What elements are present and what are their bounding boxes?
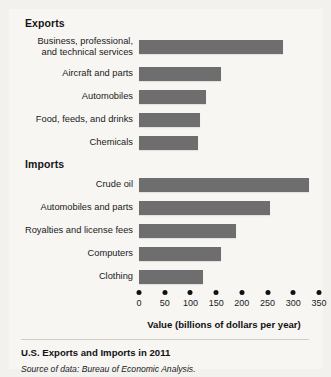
bar-row-label-line: and technical services: [17, 47, 133, 58]
bar-row: Automobiles: [17, 85, 313, 108]
bar-row-label-line: Food, feeds, and drinks: [17, 114, 133, 125]
bar-track: [139, 131, 313, 154]
bar-row-label: Aircraft and parts: [17, 68, 139, 79]
bar-row-label-line: Clothing: [17, 271, 133, 282]
bar-row-label-line: Automobiles: [17, 91, 133, 102]
bar-row-label: Royalties and license fees: [17, 225, 139, 236]
figure-page: Exports Business, professional,and techn…: [0, 0, 331, 377]
bar: [139, 201, 270, 215]
x-axis-tick-label: 300: [286, 298, 301, 308]
bar-row: Aircraft and parts: [17, 62, 313, 85]
bar-row: Computers: [17, 242, 313, 265]
x-axis-tick-label: 0: [136, 298, 141, 308]
bar-row: Food, feeds, and drinks: [17, 108, 313, 131]
bar-row: Royalties and license fees: [17, 219, 313, 242]
bar-row-label-line: Crude oil: [17, 179, 133, 190]
x-axis-tick-label: 50: [160, 298, 170, 308]
x-axis: 050100150200250300350: [139, 288, 313, 318]
bar: [139, 67, 221, 81]
x-axis-title: Value (billions of dollars per year): [139, 319, 313, 330]
bar-row: Automobiles and parts: [17, 196, 313, 219]
bar-row-label: Food, feeds, and drinks: [17, 114, 139, 125]
bar-track: [139, 265, 313, 288]
bar-row-label: Clothing: [17, 271, 139, 282]
bar-row: Chemicals: [17, 131, 313, 154]
x-axis-tick-dot: [162, 290, 167, 295]
x-axis-tick-label: 150: [209, 298, 224, 308]
bar-track: [139, 196, 313, 219]
x-axis-tick-label: 200: [234, 298, 249, 308]
bar-row: Clothing: [17, 265, 313, 288]
bar: [139, 40, 283, 54]
x-axis-tick-dot: [291, 290, 296, 295]
bar-row: Crude oil: [17, 173, 313, 196]
bar: [139, 136, 198, 150]
figure-panel: Exports Business, professional,and techn…: [9, 9, 323, 369]
bar: [139, 224, 236, 238]
bar-track: [139, 242, 313, 265]
x-axis-tick-label: 250: [260, 298, 275, 308]
bar-row-label: Crude oil: [17, 179, 139, 190]
bar-row-label: Automobiles and parts: [17, 202, 139, 213]
bar-row-label-line: Aircraft and parts: [17, 68, 133, 79]
exports-bar-group: Business, professional,and technical ser…: [17, 32, 313, 154]
bar: [139, 90, 206, 104]
bar-row-label-line: Chemicals: [17, 137, 133, 148]
x-axis-tick-dot: [239, 290, 244, 295]
imports-bar-group: Crude oilAutomobiles and partsRoyalties …: [17, 173, 313, 288]
bar-row-label-line: Computers: [17, 248, 133, 259]
x-axis-tick-dot: [188, 290, 193, 295]
bar: [139, 113, 200, 127]
bar-track: [139, 32, 313, 62]
x-axis-ticks: [139, 288, 313, 298]
x-axis-tick-label: 100: [183, 298, 198, 308]
bar-row-label-line: Automobiles and parts: [17, 202, 133, 213]
x-axis-tick-dot: [137, 290, 142, 295]
x-axis-tick-labels: 050100150200250300350: [139, 298, 313, 311]
figure-source: Source of data: Bureau of Economic Analy…: [21, 364, 313, 374]
bar-row-label: Computers: [17, 248, 139, 259]
caption-divider: [21, 339, 309, 340]
bar: [139, 247, 221, 261]
bar-row-label: Chemicals: [17, 137, 139, 148]
bar-row-label-line: Royalties and license fees: [17, 225, 133, 236]
x-axis-tick-dot: [265, 290, 270, 295]
bar-row-label: Business, professional,and technical ser…: [17, 36, 139, 57]
exports-section-heading: Exports: [25, 17, 313, 29]
bar: [139, 270, 203, 284]
x-axis-tick-dot: [317, 290, 322, 295]
bar-row-label: Automobiles: [17, 91, 139, 102]
imports-section-heading: Imports: [25, 158, 313, 170]
bar-track: [139, 62, 313, 85]
bar-row-label-line: Business, professional,: [17, 36, 133, 47]
x-axis-tick-label: 350: [311, 298, 326, 308]
bar-track: [139, 173, 313, 196]
x-axis-tick-dot: [214, 290, 219, 295]
bar-row: Business, professional,and technical ser…: [17, 32, 313, 62]
figure-caption: U.S. Exports and Imports in 2011: [21, 347, 313, 358]
bar-track: [139, 108, 313, 131]
bar-track: [139, 219, 313, 242]
bar-track: [139, 85, 313, 108]
bar: [139, 178, 309, 192]
